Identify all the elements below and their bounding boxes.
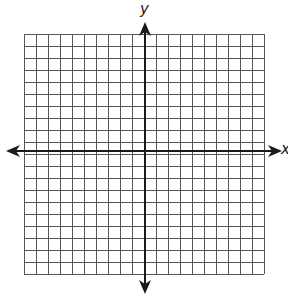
coordinate-plane <box>0 0 288 303</box>
y-axis-label: y <box>140 0 149 18</box>
x-axis-label: x <box>281 140 288 158</box>
